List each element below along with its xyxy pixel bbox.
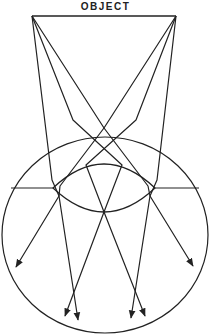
right-apex-ray-1 — [131, 16, 176, 318]
right-apex-ray-2 — [86, 16, 176, 316]
left-apex-ray-1 — [32, 16, 78, 320]
eye-optics-diagram — [0, 0, 211, 336]
lens — [53, 164, 155, 212]
eye-circle — [2, 137, 208, 333]
left-apex-ray-2 — [32, 16, 122, 316]
